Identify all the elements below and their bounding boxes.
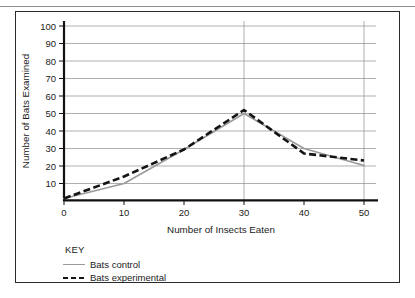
top-horizontal-rule xyxy=(0,6,415,7)
legend-label-bats-control: Bats control xyxy=(90,259,140,270)
legend-label-bats-experimental: Bats experimental xyxy=(90,272,166,283)
y-tick-label-90: 90 xyxy=(45,38,56,49)
y-tick-label-70: 70 xyxy=(45,73,56,84)
y-axis-title: Number of Bats Examined xyxy=(20,54,31,168)
series-line-bats-control xyxy=(64,114,364,199)
y-tick-label-20: 20 xyxy=(45,161,56,172)
legend-item-bats-experimental: Bats experimental xyxy=(63,271,283,284)
figure-box: 10 20 30 40 50 60 70 80 90 100 0 10 20 3… xyxy=(15,11,400,283)
gridlines-vertical xyxy=(244,21,364,201)
y-tick-label-30: 30 xyxy=(45,143,56,154)
x-tick-label-50: 50 xyxy=(359,207,370,218)
y-tick-label-50: 50 xyxy=(45,108,56,119)
x-tick-label-30: 30 xyxy=(239,207,250,218)
y-tick-label-10: 10 xyxy=(45,178,56,189)
series-line-bats-experimental xyxy=(64,110,364,199)
y-tick-label-60: 60 xyxy=(45,91,56,102)
legend-title: KEY xyxy=(65,244,283,255)
gridlines-horizontal xyxy=(64,26,376,184)
legend: KEY Bats control Bats experimental xyxy=(63,244,283,284)
x-tick-label-0: 0 xyxy=(61,207,66,218)
figure-root: 10 20 30 40 50 60 70 80 90 100 0 10 20 3… xyxy=(0,0,415,298)
y-tick-label-80: 80 xyxy=(45,56,56,67)
y-tick-label-40: 40 xyxy=(45,126,56,137)
legend-swatch-dashed-line-icon xyxy=(63,273,85,283)
x-tick-label-10: 10 xyxy=(119,207,130,218)
legend-item-bats-control: Bats control xyxy=(63,258,283,271)
x-tick-label-20: 20 xyxy=(179,207,190,218)
y-tick-label-100: 100 xyxy=(40,21,56,32)
line-chart: 10 20 30 40 50 60 70 80 90 100 0 10 20 3… xyxy=(16,12,399,282)
x-tick-label-40: 40 xyxy=(299,207,310,218)
x-axis-title: Number of Insects Eaten xyxy=(167,224,275,235)
legend-swatch-solid-line-icon xyxy=(63,260,85,270)
